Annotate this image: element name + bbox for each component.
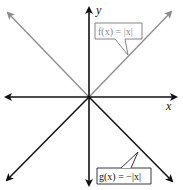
f-label: f(x) = |x| [98,26,133,38]
origin-point [87,95,91,99]
g-label: g(x) = −|x| [99,171,141,183]
graph: y x f(x) = |x| g(x) = −|x| [0,0,183,190]
x-axis-label: x [165,99,172,113]
y-axis-label: y [95,3,102,17]
g-label-callout: g(x) = −|x| [97,152,151,184]
